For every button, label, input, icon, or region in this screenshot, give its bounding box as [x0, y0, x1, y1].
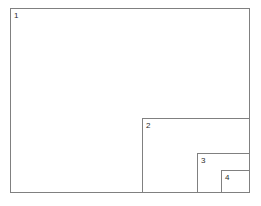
diagram-canvas: 1234: [0, 0, 261, 206]
rectangle-label-1: 1: [14, 12, 18, 20]
rectangle-label-3: 3: [201, 157, 205, 165]
rectangle-label-4: 4: [225, 174, 229, 182]
rectangle-label-2: 2: [146, 122, 150, 130]
